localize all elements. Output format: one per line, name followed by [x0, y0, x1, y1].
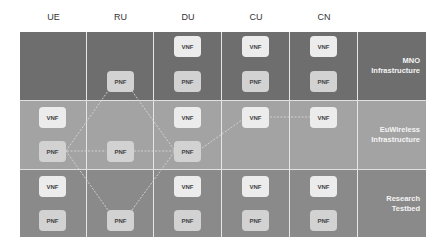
column-header-cn: CN	[290, 12, 358, 28]
node-ue-pnf-euwireless: PNF	[39, 141, 66, 162]
node-du-pnf-mno: PNF	[174, 71, 201, 92]
node-cn-vnf-mno: VNF	[310, 36, 337, 57]
row-label-line2: Testbed	[386, 204, 420, 214]
node-cn-pnf-research: PNF	[310, 210, 337, 231]
node-cn-pnf-mno: PNF	[310, 71, 337, 92]
node-cn-vnf-euwireless: VNF	[310, 107, 337, 128]
node-du-pnf-euwireless: PNF	[174, 141, 201, 162]
column-header-du: DU	[154, 12, 222, 28]
node-ru-pnf-mno: PNF	[107, 71, 134, 92]
node-du-vnf-euwireless: VNF	[174, 107, 201, 128]
node-ru-pnf-euwireless: PNF	[107, 141, 134, 162]
node-du-vnf-mno: VNF	[174, 36, 201, 57]
node-ue-pnf-research: PNF	[39, 210, 66, 231]
deployment-grid: MNO Infrastructure EuWireless Infrastruc…	[20, 32, 426, 237]
row-label-mno: MNO Infrastructure	[371, 56, 420, 76]
row-euwireless-infrastructure: EuWireless Infrastructure	[20, 101, 426, 169]
row-label-line1: EuWireless	[371, 125, 420, 135]
node-du-pnf-research: PNF	[174, 210, 201, 231]
row-label-line1: Research	[386, 194, 420, 204]
node-ru-pnf-research: PNF	[107, 210, 134, 231]
node-cu-vnf-research: VNF	[242, 176, 269, 197]
column-header-cu: CU	[222, 12, 290, 28]
row-research-testbed: Research Testbed	[20, 170, 426, 237]
node-cu-vnf-mno: VNF	[242, 36, 269, 57]
row-mno-infrastructure: MNO Infrastructure	[20, 32, 426, 100]
node-cn-vnf-research: VNF	[310, 176, 337, 197]
row-label-line1: MNO	[371, 56, 420, 66]
column-header-ue: UE	[20, 12, 87, 28]
node-cu-pnf-mno: PNF	[242, 71, 269, 92]
column-header-ru: RU	[87, 12, 154, 28]
node-cu-pnf-research: PNF	[242, 210, 269, 231]
node-ue-vnf-research: VNF	[39, 176, 66, 197]
cell	[20, 32, 87, 100]
row-label-euwireless: EuWireless Infrastructure	[371, 125, 420, 145]
row-label-line2: Infrastructure	[371, 66, 420, 76]
row-label-line2: Infrastructure	[371, 135, 420, 145]
node-du-vnf-research: VNF	[174, 176, 201, 197]
row-label-research: Research Testbed	[386, 194, 420, 214]
node-ue-vnf-euwireless: VNF	[39, 107, 66, 128]
node-cu-vnf-euwireless: VNF	[242, 107, 269, 128]
